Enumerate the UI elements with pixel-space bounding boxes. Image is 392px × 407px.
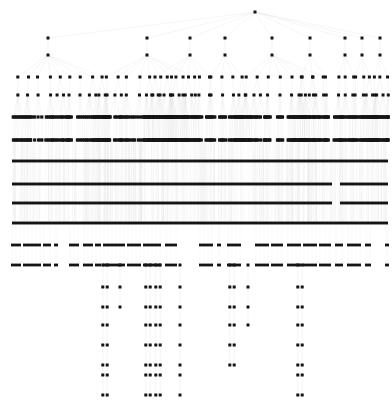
tree-node	[106, 264, 109, 267]
tree-node	[159, 324, 162, 327]
tree-node	[194, 94, 197, 97]
tree-node	[159, 344, 162, 347]
tree-node	[97, 94, 100, 97]
tree-node	[228, 324, 231, 327]
tree-node	[166, 76, 169, 79]
tree-node	[233, 286, 236, 289]
tree-node-band	[319, 264, 331, 267]
tree-node	[279, 76, 282, 79]
tree-node-band	[199, 264, 213, 267]
tree-node	[149, 324, 152, 327]
tree-node-band	[54, 244, 58, 247]
tree-node	[36, 76, 39, 79]
tree-node	[179, 306, 182, 309]
tree-node	[27, 76, 30, 79]
tree-node	[301, 286, 304, 289]
tree-node-band	[165, 244, 177, 247]
tree-node	[106, 374, 109, 377]
tree-node	[232, 94, 235, 97]
tree-node-band	[45, 116, 72, 119]
tree-node	[337, 76, 340, 79]
tree-node	[149, 286, 152, 289]
tree-node	[361, 37, 364, 40]
tree-node	[178, 94, 181, 97]
tree-node-band	[43, 244, 51, 247]
tree-node	[247, 264, 250, 267]
tree-node	[311, 76, 314, 79]
tree-node	[149, 344, 152, 347]
tree-node-band	[347, 244, 361, 247]
tree-node	[182, 76, 185, 79]
tree-node	[101, 324, 104, 327]
tree-node	[159, 374, 162, 377]
tree-node	[220, 76, 223, 79]
tree-node-band	[95, 264, 101, 267]
tree-node	[106, 94, 109, 97]
tree-node	[228, 364, 231, 367]
tree-node	[120, 94, 123, 97]
tree-node-band	[385, 244, 389, 247]
tree-node	[198, 76, 201, 79]
tree-node	[67, 94, 70, 97]
tree-node	[368, 76, 371, 79]
tree-node	[300, 94, 303, 97]
tree-node	[68, 76, 71, 79]
tree-node	[159, 286, 162, 289]
tree-node	[228, 344, 231, 347]
tree-node-band	[340, 183, 388, 186]
tree-node	[304, 94, 307, 97]
tree-node	[301, 344, 304, 347]
tree-node	[228, 306, 231, 309]
tree-node	[296, 286, 299, 289]
tree-node	[78, 94, 81, 97]
tree-node	[174, 76, 177, 79]
tree-node-band	[113, 139, 135, 142]
tree-node	[159, 394, 162, 397]
tree-node	[290, 76, 293, 79]
tree-node	[267, 76, 270, 79]
tree-node	[179, 264, 182, 267]
tree-node-band	[12, 202, 332, 205]
tree-node-band	[69, 264, 79, 267]
tree-node	[146, 54, 149, 57]
tree-node	[344, 54, 347, 57]
tree-node	[266, 94, 269, 97]
tree-node	[144, 374, 147, 377]
tree-node	[252, 94, 255, 97]
tree-node-band	[228, 139, 262, 142]
tree-node-band	[199, 244, 213, 247]
tree-node-band	[11, 264, 21, 267]
tree-node	[228, 264, 231, 267]
tree-node	[354, 76, 357, 79]
tree-node	[125, 94, 128, 97]
tree-node	[362, 76, 365, 79]
tree-node	[144, 394, 147, 397]
tree-node	[233, 324, 236, 327]
tree-node	[145, 94, 148, 97]
tree-node	[106, 306, 109, 309]
tree-node	[296, 364, 299, 367]
tree-node	[301, 264, 304, 267]
tree-node	[159, 264, 162, 267]
tree-node	[309, 37, 312, 40]
tree-node	[88, 94, 91, 97]
tree-node	[40, 115, 43, 118]
tree-node	[47, 37, 50, 40]
tree-node-band	[205, 116, 216, 119]
tree-node-band	[303, 264, 317, 267]
tree-node-band	[23, 244, 41, 247]
tree-node	[154, 286, 157, 289]
tree-node	[79, 76, 82, 79]
tree-node	[106, 344, 109, 347]
tree-node	[382, 94, 385, 97]
tree-node	[244, 94, 247, 97]
tree-node	[149, 364, 152, 367]
tree-node	[144, 306, 147, 309]
tree-node	[179, 364, 182, 367]
tree-node	[119, 286, 122, 289]
tree-node-band	[365, 244, 371, 247]
tree-node-band	[12, 160, 388, 163]
tree-node	[259, 94, 262, 97]
tree-node	[62, 94, 65, 97]
tree-node	[189, 37, 192, 40]
